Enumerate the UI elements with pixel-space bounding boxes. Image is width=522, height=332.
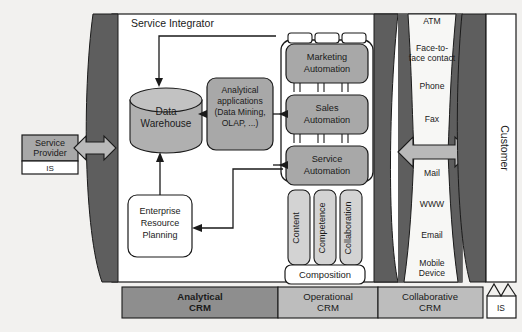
channel-mobile-device-line2: Device bbox=[419, 268, 445, 278]
channel-face-to-face-contact-line1: Face-to- bbox=[416, 43, 448, 53]
collaborative-crm-line2: CRM bbox=[419, 302, 441, 313]
operational-crm-line1: Operational bbox=[303, 291, 353, 302]
tab-content-top bbox=[288, 33, 312, 43]
collaborative-crm-line1: Collaborative bbox=[402, 291, 458, 302]
analytical-crm-line1: Analytical bbox=[177, 291, 222, 302]
service-provider-is-label: IS bbox=[46, 164, 54, 173]
customer-is-label: IS bbox=[497, 303, 505, 313]
service-integrator-label: Service Integrator bbox=[131, 17, 214, 29]
marketing-automation-line1: Marketing bbox=[307, 52, 347, 62]
erp-label-line2: Resource bbox=[141, 218, 180, 228]
data-warehouse-label-line2: Warehouse bbox=[141, 118, 192, 129]
competence-pillar-label: Competence bbox=[317, 202, 327, 253]
tab-competence-top bbox=[315, 33, 339, 43]
channel-atm-label: ATM bbox=[423, 16, 441, 26]
operational-crm-line2: CRM bbox=[317, 302, 339, 313]
sales-automation-line1: Sales bbox=[316, 103, 339, 113]
collaboration-pillar-label: Collaboration bbox=[343, 201, 353, 254]
data-warehouse-label-line1: Data bbox=[155, 106, 177, 117]
crm-architecture-diagram: Service Integrator Service Provider IS D… bbox=[0, 0, 522, 332]
erp-label-line3: Planning bbox=[142, 230, 177, 240]
analytical-applications-line4: OLAP, ...) bbox=[222, 118, 259, 128]
service-provider-label-line2: Provider bbox=[33, 148, 67, 158]
composition-label: Composition bbox=[299, 269, 351, 280]
diagram-canvas: Service Integrator Service Provider IS D… bbox=[0, 0, 522, 332]
channel-mail-label: Mail bbox=[424, 168, 440, 178]
erp-label-line1: Enterprise bbox=[139, 206, 180, 216]
channel-face-to-face-contact-line2: face contact bbox=[409, 53, 456, 63]
service-automation-line2: Automation bbox=[304, 166, 350, 176]
analytical-crm-line2: CRM bbox=[189, 302, 211, 313]
channel-phone-label: Phone bbox=[420, 81, 445, 91]
tab-collaboration-top bbox=[342, 33, 366, 43]
analytical-applications-line2: applications bbox=[217, 96, 262, 106]
analytical-applications-line3: (Data Mining, bbox=[214, 107, 265, 117]
customer-label: Customer bbox=[499, 125, 511, 171]
marketing-automation-line2: Automation bbox=[304, 64, 350, 74]
service-automation-line1: Service bbox=[312, 154, 343, 164]
analytical-applications-line1: Analytical bbox=[222, 85, 259, 95]
channel-fax-label: Fax bbox=[425, 114, 440, 124]
channel-mobile-device-line1: Mobile bbox=[419, 258, 445, 268]
operational-top-tabs bbox=[288, 33, 366, 43]
service-provider-label-line1: Service bbox=[35, 138, 65, 148]
sales-automation-line2: Automation bbox=[304, 115, 350, 125]
channel-www-label: WWW bbox=[420, 199, 445, 209]
channel-email-label: Email bbox=[421, 230, 443, 240]
content-pillar-label: Content bbox=[291, 212, 301, 244]
